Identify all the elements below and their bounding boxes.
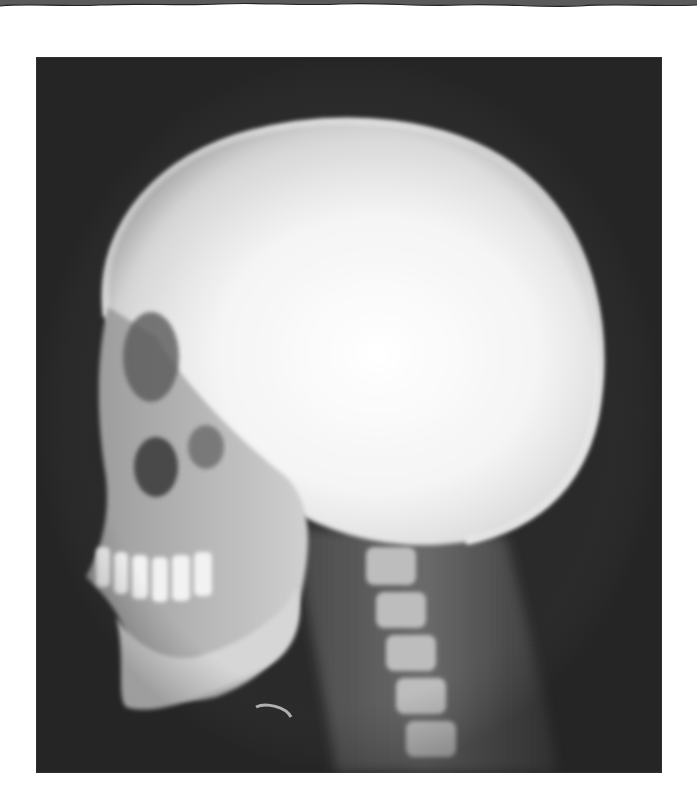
skull-radiograph — [36, 57, 662, 773]
xray-image — [36, 57, 662, 773]
torn-paper-edge — [0, 0, 697, 10]
